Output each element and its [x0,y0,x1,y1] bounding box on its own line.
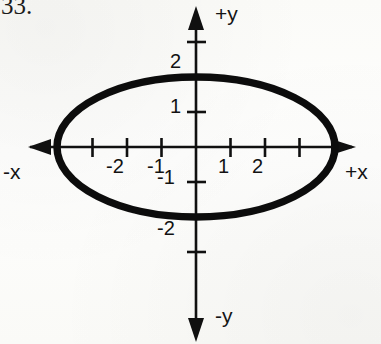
y-axis-arrow-negative [188,318,204,342]
x-tick-label-1: 1 [218,156,229,176]
graph-canvas [0,0,381,344]
figure-root: 33. [0,0,381,344]
axis-label-positive-x: +x [345,161,368,182]
x-axis [28,139,356,155]
y-tick-label-1: 1 [170,96,181,116]
x-axis-arrow-negative [28,139,51,155]
y-axis [188,6,204,342]
axis-label-negative-y: -y [215,305,233,326]
x-tick-label-minus-2: -2 [106,156,124,176]
x-tick-label-2: 2 [252,156,263,176]
y-axis-arrow-positive [188,6,204,30]
y-tick-label-minus-2: -2 [157,218,175,238]
x-tick-label-minus-1: -1 [147,156,165,176]
y-tick-label-2: 2 [170,51,181,71]
axis-label-negative-x: -x [3,161,21,182]
axis-label-positive-y: +y [215,3,238,24]
